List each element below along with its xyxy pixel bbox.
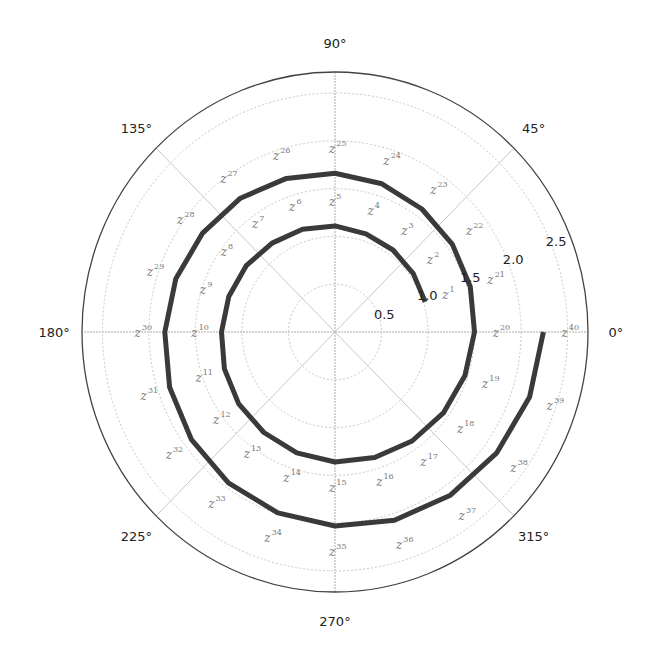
point-label-z10: z10 (190, 323, 209, 340)
point-label-z38: z38 (509, 458, 528, 475)
angular-tick-label-225: 225° (121, 529, 152, 544)
angular-tick-label-45: 45° (522, 121, 545, 136)
point-label-z18: z18 (456, 419, 475, 436)
point-label-z32: z32 (165, 445, 184, 462)
point-label-z19: z19 (481, 374, 500, 391)
point-label-z1: z1 (441, 285, 454, 302)
radial-tick-label: 1.5 (460, 270, 481, 285)
point-label-z22: z22 (465, 221, 484, 238)
point-label-z8: z8 (220, 242, 233, 259)
point-label-z16: z16 (375, 472, 394, 489)
point-label-z23: z23 (429, 180, 448, 197)
point-label-z27: z27 (219, 169, 238, 186)
point-label-z11: z11 (194, 368, 213, 385)
angular-tick-label-315: 315° (518, 529, 549, 544)
point-label-z14: z14 (282, 468, 301, 485)
point-label-z5: z5 (328, 192, 341, 209)
point-label-z37: z37 (458, 506, 477, 523)
point-label-z21: z21 (486, 270, 505, 287)
point-label-z31: z31 (140, 386, 159, 403)
radial-tick-label: 1.0 (417, 288, 438, 303)
spiral-line (165, 173, 544, 526)
point-label-z17: z17 (419, 452, 438, 469)
point-label-z30: z30 (134, 323, 153, 340)
angular-tick-label-90: 90° (323, 36, 346, 51)
angular-tick-label-135: 135° (121, 121, 152, 136)
point-labels: z1z2z3z4z5z6z7z8z9z10z11z12z13z14z15z16z… (134, 139, 579, 558)
point-label-z28: z28 (176, 210, 195, 227)
point-label-z26: z26 (272, 146, 291, 163)
angular-gridline-45 (335, 148, 514, 332)
point-label-z4: z4 (367, 201, 380, 218)
point-label-z40: z40 (561, 323, 580, 340)
point-label-z20: z20 (492, 323, 511, 340)
radial-tick-label: 0.5 (374, 307, 395, 322)
angular-tick-label-180: 180° (38, 325, 69, 340)
point-label-z25: z25 (328, 139, 347, 156)
angular-tick-label-270: 270° (319, 614, 350, 629)
polar-chart: z1z2z3z4z5z6z7z8z9z10z11z12z13z14z15z16z… (0, 0, 656, 655)
point-label-z3: z3 (400, 221, 413, 238)
radial-tick-label: 2.0 (503, 252, 524, 267)
point-label-z13: z13 (243, 444, 262, 461)
point-label-z7: z7 (251, 214, 264, 231)
point-label-z6: z6 (288, 197, 301, 214)
point-label-z29: z29 (146, 262, 165, 279)
point-label-z9: z9 (199, 280, 212, 297)
point-label-z36: z36 (395, 535, 414, 552)
point-label-z34: z34 (263, 528, 282, 545)
point-label-z33: z33 (207, 494, 226, 511)
point-label-z24: z24 (382, 151, 401, 168)
point-label-z15: z15 (328, 478, 347, 495)
angular-tick-label-0: 0° (609, 325, 624, 340)
point-label-z35: z35 (328, 542, 347, 559)
point-label-z2: z2 (426, 250, 439, 267)
radial-tick-label: 2.5 (546, 234, 567, 249)
point-label-z39: z39 (546, 396, 565, 413)
